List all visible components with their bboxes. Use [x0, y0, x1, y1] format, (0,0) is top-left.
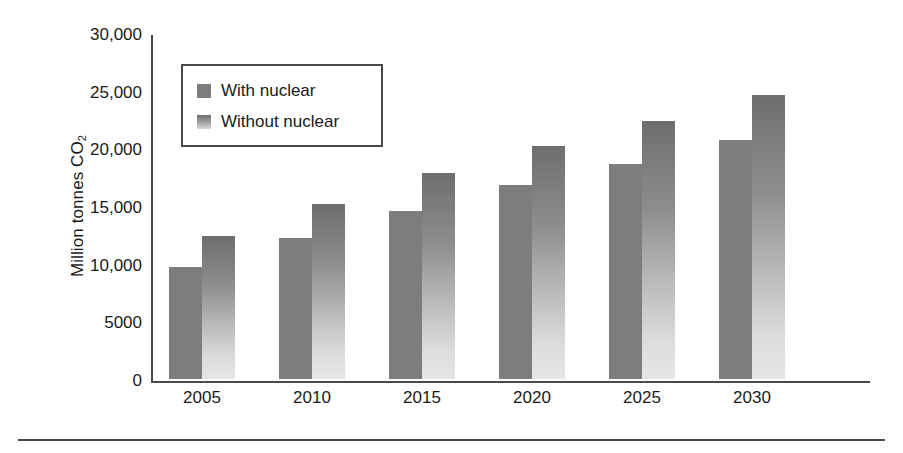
bar-without-nuclear[interactable]: [312, 204, 345, 379]
y-axis-tick-label: 15,000: [90, 198, 142, 218]
bar-without-nuclear[interactable]: [752, 95, 785, 379]
y-axis-tick-label: 25,000: [90, 83, 142, 103]
x-axis-tick-label: 2005: [183, 388, 221, 408]
bar-with-nuclear[interactable]: [169, 267, 202, 379]
y-axis-tick-label: 0: [133, 371, 142, 391]
legend-item-label: Without nuclear: [221, 112, 339, 132]
bar-chart-figure: Million tonnes CO2 30,000 25,000 20,000 …: [0, 0, 903, 453]
bar-without-nuclear[interactable]: [532, 146, 565, 379]
legend-item-without-nuclear[interactable]: Without nuclear: [197, 106, 381, 137]
legend-item-with-nuclear[interactable]: With nuclear: [197, 75, 381, 106]
y-axis-tick-label: 30,000: [90, 25, 142, 45]
y-axis-line: [151, 35, 153, 382]
bar-group: 2015: [389, 33, 455, 379]
y-axis-tick-label: 10,000: [90, 256, 142, 276]
x-axis-tick-label: 2015: [403, 388, 441, 408]
bar-without-nuclear[interactable]: [202, 236, 235, 379]
y-axis-title-text: Million tonnes CO: [68, 141, 87, 277]
bar-with-nuclear[interactable]: [389, 211, 422, 379]
bar-with-nuclear[interactable]: [719, 140, 752, 379]
bar-without-nuclear[interactable]: [642, 121, 675, 379]
y-axis-tick-label: 5000: [104, 313, 142, 333]
bar-group: 2030: [719, 33, 785, 379]
bar-with-nuclear[interactable]: [279, 238, 312, 379]
y-axis-tick-label: 20,000: [90, 140, 142, 160]
y-axis-title-subscript: 2: [76, 135, 88, 141]
bar-group: 2020: [499, 33, 565, 379]
x-axis-tick-label: 2020: [513, 388, 551, 408]
bar-group: 2025: [609, 33, 675, 379]
bar-without-nuclear[interactable]: [422, 173, 455, 379]
legend-item-label: With nuclear: [221, 81, 315, 101]
x-axis-tick-label: 2025: [623, 388, 661, 408]
x-axis-line: [151, 381, 870, 383]
bar-with-nuclear[interactable]: [499, 185, 532, 379]
bar-with-nuclear[interactable]: [609, 164, 642, 379]
y-axis-title: Million tonnes CO2: [68, 66, 88, 346]
bottom-divider-rule: [18, 439, 885, 441]
legend-swatch-icon: [197, 115, 211, 129]
legend-swatch-icon: [197, 84, 211, 98]
x-axis-tick-label: 2010: [293, 388, 331, 408]
chart-legend: With nuclear Without nuclear: [181, 64, 383, 147]
x-axis-tick-label: 2030: [733, 388, 771, 408]
